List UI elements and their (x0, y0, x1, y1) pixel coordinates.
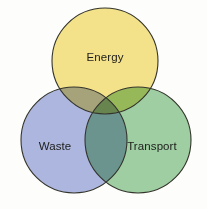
venn-circle-fills (21, 8, 191, 193)
venn-diagram: Energy Waste Transport (0, 0, 207, 209)
venn-diagram-canvas (0, 0, 207, 209)
